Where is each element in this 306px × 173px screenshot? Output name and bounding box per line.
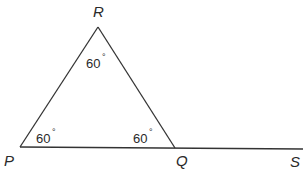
triangle-diagram: R P Q S 60 ° 60 ° 60 ° bbox=[0, 0, 306, 173]
segment-ps bbox=[20, 147, 303, 149]
segment-rq bbox=[98, 27, 175, 148]
vertex-label-s: S bbox=[290, 153, 300, 170]
angle-q-value: 60 bbox=[133, 131, 147, 146]
angle-r-degree: ° bbox=[102, 52, 106, 62]
segment-pr bbox=[20, 27, 98, 147]
vertex-label-r: R bbox=[93, 3, 104, 20]
angle-p-degree: ° bbox=[52, 127, 56, 137]
angle-p-value: 60 bbox=[36, 131, 50, 146]
angle-r-value: 60 bbox=[86, 56, 100, 71]
angle-q-degree: ° bbox=[149, 127, 153, 137]
vertex-label-p: P bbox=[4, 152, 14, 169]
vertex-label-q: Q bbox=[176, 152, 188, 169]
